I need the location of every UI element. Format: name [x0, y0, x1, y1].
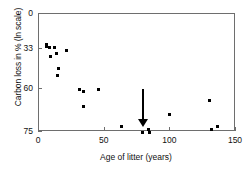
x-axis-tick: [104, 127, 105, 131]
y-axis-tick: [38, 131, 42, 132]
x-axis-tick-label: 50: [91, 135, 117, 145]
x-axis-tick: [169, 127, 170, 131]
x-axis-tick-label: 100: [156, 135, 182, 145]
y-axis-tick-label: 60: [7, 83, 33, 93]
x-axis-tick-label: 150: [222, 135, 248, 145]
x-axis-tick: [38, 127, 39, 131]
x-axis-tick-label: 0: [25, 135, 51, 145]
y-axis-tick: [38, 13, 42, 14]
scatter-chart-figure: Carbon loss in % (ln scale) Age of litte…: [0, 0, 250, 172]
x-axis-tick: [235, 127, 236, 131]
y-axis-tick: [38, 48, 42, 49]
axis-ticks-layer: 0336075050100150: [0, 0, 250, 172]
y-axis-tick: [38, 88, 42, 89]
y-axis-tick-label: 0: [7, 8, 33, 18]
y-axis-tick-label: 33: [7, 43, 33, 53]
